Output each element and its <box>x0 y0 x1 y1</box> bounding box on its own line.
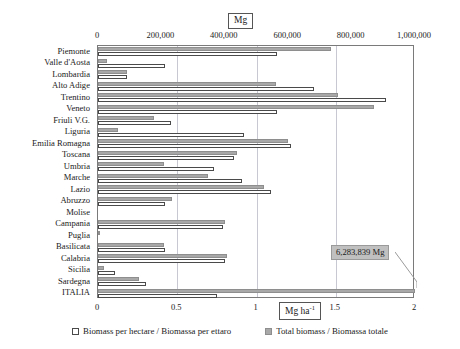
bar-biomass-per-hectare <box>98 190 271 194</box>
bar-biomass-per-hectare <box>98 167 214 171</box>
bar-total-biomass <box>98 151 237 155</box>
legend-label: Total biomass / Biomassa totale <box>276 326 388 336</box>
category-label: Valle d'Aosta <box>44 58 90 67</box>
category-label: Lombardia <box>52 69 90 78</box>
category-label: Lazio <box>70 184 90 193</box>
bar-total-biomass <box>98 162 164 166</box>
bottom-axis-unit-label: Mg ha-1 <box>279 302 321 320</box>
bottom-unit-main: Mg ha <box>285 306 310 316</box>
chart-legend: Biomass per hectare / Biomassa per ettar… <box>0 326 460 336</box>
bar-total-biomass <box>98 70 127 74</box>
legend-label: Biomass per hectare / Biomassa per ettar… <box>83 326 231 336</box>
category-label: Campania <box>55 219 90 228</box>
category-label: Puglia <box>68 230 90 239</box>
category-label: Toscana <box>62 150 90 159</box>
bar-biomass-per-hectare <box>98 52 277 56</box>
top-axis-tick-label: 800,000 <box>337 31 365 40</box>
bar-total-biomass <box>98 47 331 51</box>
bar-total-biomass <box>98 197 172 201</box>
bar-total-biomass <box>98 59 107 63</box>
category-label: Liguria <box>65 127 90 136</box>
bar-biomass-per-hectare <box>98 121 171 125</box>
legend-swatch-icon <box>265 328 272 335</box>
category-label: Veneto <box>66 104 90 113</box>
bar-biomass-per-hectare <box>98 271 115 275</box>
bottom-axis-tick-label: 1.5 <box>329 303 340 312</box>
bar-biomass-per-hectare <box>98 144 291 148</box>
category-label: Sardegna <box>58 276 90 285</box>
bar-biomass-per-hectare <box>98 202 165 206</box>
bar-total-biomass <box>98 289 415 293</box>
category-label: Piemonte <box>58 46 90 55</box>
bar-total-biomass <box>98 139 288 143</box>
bottom-axis-tick-label: 2 <box>412 303 416 312</box>
bar-biomass-per-hectare <box>98 179 242 183</box>
bar-biomass-per-hectare <box>98 110 277 114</box>
category-label: Abruzzo <box>60 196 90 205</box>
category-label: Friuli V.G. <box>53 115 90 124</box>
bar-biomass-per-hectare <box>98 87 314 91</box>
bar-biomass-per-hectare <box>98 225 223 229</box>
bar-biomass-per-hectare <box>98 133 244 137</box>
category-label: Calabria <box>61 253 90 262</box>
bar-total-biomass <box>98 174 208 178</box>
bar-total-biomass <box>98 266 104 270</box>
bar-biomass-per-hectare <box>98 64 165 68</box>
bar-total-biomass <box>98 128 118 132</box>
top-axis-tick-label: 600,000 <box>273 31 301 40</box>
top-axis-tick-label: 0 <box>95 31 99 40</box>
bar-total-biomass <box>98 277 139 281</box>
bar-total-biomass <box>98 93 338 97</box>
plot-area <box>97 45 414 298</box>
bar-total-biomass <box>98 231 100 235</box>
bottom-axis-tick-label: 1 <box>253 303 257 312</box>
category-axis-labels: PiemonteValle d'AostaLombardiaAlto Adige… <box>0 45 94 298</box>
bar-biomass-per-hectare <box>98 75 127 79</box>
bar-total-biomass <box>98 116 154 120</box>
category-label: Emilia Romagna <box>32 138 90 147</box>
legend-item: Total biomass / Biomassa totale <box>265 326 388 336</box>
top-axis-tick-label: 1,000,000 <box>397 31 431 40</box>
category-label: Molise <box>66 207 90 216</box>
top-axis-unit-label: Mg <box>228 13 253 29</box>
biomass-bar-chart: Mg 0200,000400,000600,000800,0001,000,00… <box>0 0 460 349</box>
bar-total-biomass <box>98 185 264 189</box>
bar-total-biomass <box>98 82 276 86</box>
category-label: ITALIA <box>62 288 90 297</box>
category-label: Umbria <box>64 161 90 170</box>
bar-biomass-per-hectare <box>98 248 165 252</box>
bar-total-biomass <box>98 243 164 247</box>
category-label: Basilicata <box>56 242 90 251</box>
legend-swatch-icon <box>72 328 79 335</box>
bar-biomass-per-hectare <box>98 282 146 286</box>
category-label: Alto Adige <box>52 81 90 90</box>
category-label: Sicilia <box>68 265 90 274</box>
top-axis-tick-label: 200,000 <box>147 31 175 40</box>
bar-total-biomass <box>98 220 225 224</box>
category-label: Marche <box>64 173 90 182</box>
bottom-axis-tick-label: 0 <box>95 303 99 312</box>
bar-total-biomass <box>98 105 374 109</box>
category-label: Trentino <box>61 92 90 101</box>
bar-total-biomass <box>98 254 227 258</box>
bar-biomass-per-hectare <box>98 259 225 263</box>
top-axis-tick-label: 400,000 <box>210 31 238 40</box>
bar-biomass-per-hectare <box>98 156 234 160</box>
bottom-unit-exponent: -1 <box>310 304 315 311</box>
bar-biomass-per-hectare <box>98 294 217 298</box>
legend-item: Biomass per hectare / Biomassa per ettar… <box>72 326 231 336</box>
bottom-axis-tick-label: 0.5 <box>171 303 182 312</box>
italia-total-callout: 6,283,839 Mg <box>331 245 389 260</box>
bar-biomass-per-hectare <box>98 98 386 102</box>
